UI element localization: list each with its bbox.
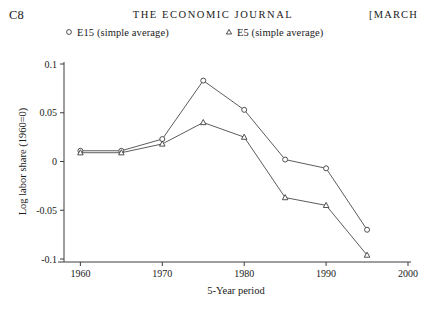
triangle-open-icon <box>200 120 206 125</box>
x-tick-label: 1970 <box>152 268 172 279</box>
series-line <box>80 123 367 256</box>
chart-series <box>78 78 370 257</box>
line-chart: 0.10.050-0.05-0.1196019701980199020005-Y… <box>0 0 426 313</box>
y-tick-label: -0.1 <box>41 254 57 265</box>
circle-open-icon <box>201 78 206 83</box>
x-tick-label: 1990 <box>316 268 336 279</box>
chart-axis-labels: 0.10.050-0.05-0.1196019701980199020005-Y… <box>17 59 418 297</box>
series-e5 <box>78 120 370 258</box>
circle-open-icon <box>242 107 247 112</box>
circle-open-icon <box>283 157 288 162</box>
y-tick-label: 0.1 <box>45 59 58 70</box>
triangle-open-icon <box>160 141 166 146</box>
y-tick-label: -0.05 <box>36 205 57 216</box>
x-tick-label: 2000 <box>398 268 418 279</box>
x-tick-label: 1960 <box>70 268 90 279</box>
y-tick-label: 0 <box>52 156 57 167</box>
x-tick-label: 1980 <box>234 268 254 279</box>
y-axis-title: Log labor share (1960=0) <box>17 107 29 215</box>
y-tick-label: 0.05 <box>40 107 58 118</box>
circle-open-icon <box>365 227 370 232</box>
circle-open-icon <box>324 166 329 171</box>
x-axis-title: 5-Year period <box>207 285 265 296</box>
chart-axes <box>58 62 411 266</box>
chart-canvas: 0.10.050-0.05-0.1196019701980199020005-Y… <box>0 0 426 313</box>
